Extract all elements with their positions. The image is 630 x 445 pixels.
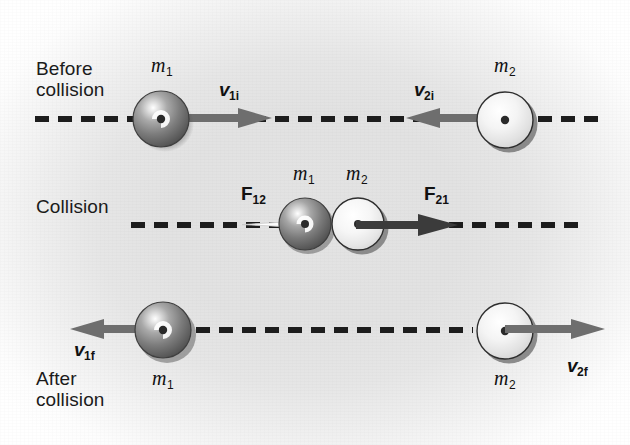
- velocity-arrow-v2f: [505, 317, 609, 341]
- mass-label-m2-after: m2: [494, 368, 515, 391]
- vector-symbol: v: [74, 339, 84, 360]
- vector-label-v2f: v2f: [567, 356, 588, 378]
- mass-subscript: 1: [167, 378, 174, 392]
- vector-subscript: 2f: [577, 365, 588, 379]
- vector-symbol: v: [567, 355, 577, 376]
- mass-label-m1-after: m1: [152, 368, 173, 391]
- vector-subscript: 1f: [84, 349, 95, 363]
- axis-dashed-line-after: [196, 327, 473, 333]
- collision-figure: Before collision m1 m2 v1i v2i: [0, 0, 630, 445]
- sphere-m1-after: [133, 300, 197, 364]
- row-after-collision: After collision v1f v2f m1 m2: [0, 0, 630, 445]
- mass-symbol: m: [494, 367, 508, 389]
- mass-subscript: 2: [509, 378, 516, 392]
- mass-symbol: m: [152, 367, 166, 389]
- vector-label-v1f: v1f: [74, 340, 95, 362]
- phase-label-after-collision: After collision: [36, 368, 105, 410]
